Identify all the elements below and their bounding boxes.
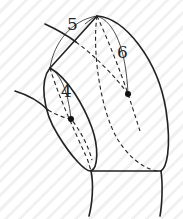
arm-right-line [160,171,162,216]
dashed-line-apex-to-dot6 [97,16,140,131]
arm-left-line [89,171,92,216]
label-4: 4 [61,83,72,100]
point-6-dot [125,91,131,97]
point-4-dot [68,116,74,122]
lower-left-line [15,91,48,110]
label-5: 5 [67,16,78,33]
large-ellipse-outline [97,16,169,171]
arm-diagram [0,0,183,219]
label-6: 6 [117,44,128,61]
